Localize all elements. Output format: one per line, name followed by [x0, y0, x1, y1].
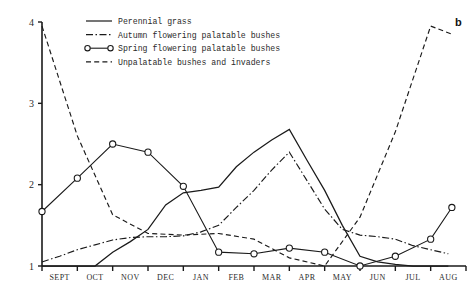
y-axis-tick-label: 4 — [29, 17, 34, 28]
x-axis-tick-label: JAN — [193, 273, 209, 282]
series-marker — [145, 149, 151, 155]
legend-label: Spring flowering palatable bushes — [118, 44, 280, 53]
series-marker — [216, 249, 222, 255]
legend-marker — [108, 46, 113, 51]
y-axis: 1234 — [29, 17, 42, 272]
y-axis-tick-label: 2 — [29, 179, 34, 190]
x-axis-tick-label: OCT — [86, 273, 103, 282]
series-marker — [392, 253, 398, 259]
series-line-solid — [42, 129, 448, 266]
series-marker — [428, 236, 434, 242]
chart-legend: Perennial grassAutumn flowering palatabl… — [85, 17, 280, 67]
x-axis-tick-label: NOV — [121, 273, 140, 282]
x-axis-tick-label: JUL — [406, 273, 421, 282]
series-marker — [251, 251, 257, 257]
x-axis-tick-label: APR — [299, 273, 316, 282]
x-axis: SEPTOCTNOVDECJANFEBMARAPRMAYJUNJULAUG — [42, 266, 466, 282]
series-marker — [322, 249, 328, 255]
legend-label: Perennial grass — [118, 17, 192, 26]
x-axis-tick-label: SEPT — [50, 273, 70, 282]
series-line-dashdot — [42, 152, 448, 262]
series-marker — [449, 204, 455, 210]
x-axis-tick-label: MAY — [333, 273, 352, 282]
legend-label: Autumn flowering palatable bushes — [118, 31, 280, 40]
series-marker — [39, 208, 45, 214]
legend-label: Unpalatable bushes and invaders — [118, 58, 270, 67]
series-line-circle — [42, 144, 452, 266]
x-axis-tick-label: FEB — [228, 273, 244, 282]
x-axis-tick-label: AUG — [439, 273, 458, 282]
x-axis-tick-label: JUN — [370, 273, 386, 282]
series-marker — [110, 141, 116, 147]
series-marker — [357, 263, 363, 269]
chart-container: 1234 SEPTOCTNOVDECJANFEBMARAPRMAYJUNJULA… — [0, 0, 473, 294]
y-axis-tick-label: 3 — [29, 98, 34, 109]
series-marker — [286, 245, 292, 251]
line-chart-svg: 1234 SEPTOCTNOVDECJANFEBMARAPRMAYJUNJULA… — [0, 0, 473, 294]
series-marker — [74, 175, 80, 181]
x-axis-tick-label: DEC — [157, 273, 174, 282]
y-axis-tick-label: 1 — [29, 261, 34, 272]
legend-marker — [85, 46, 90, 51]
series-marker — [180, 183, 186, 189]
x-axis-tick-label: MAR — [262, 273, 282, 282]
panel-label: b — [455, 16, 462, 28]
